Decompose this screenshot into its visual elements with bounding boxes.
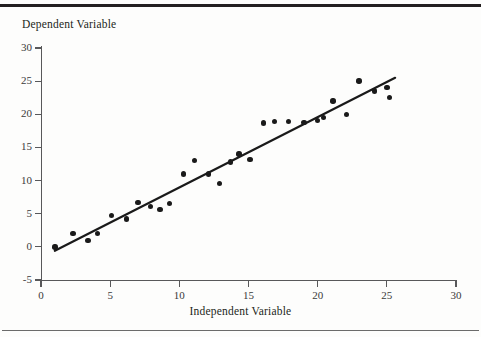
x-tick-label: 15 — [234, 289, 264, 301]
x-tick-mark — [317, 281, 318, 287]
y-tick-label: 25 — [10, 74, 32, 86]
y-tick-mark — [35, 47, 41, 48]
x-tick-label: 5 — [95, 289, 125, 301]
y-tick-label: 10 — [10, 174, 32, 186]
y-tick-label: 0 — [10, 240, 32, 252]
scatter-point — [135, 200, 140, 205]
x-tick-mark — [386, 281, 387, 287]
scatter-point — [286, 119, 291, 124]
scatter-point — [247, 157, 252, 162]
figure-container: Dependent Variable -5051015202530 051015… — [0, 0, 481, 337]
y-tick-label: 15 — [10, 140, 32, 152]
x-tick-mark — [40, 281, 41, 287]
x-tick-mark — [455, 281, 456, 287]
scatter-point — [344, 112, 349, 117]
scatter-point — [387, 95, 392, 100]
plot-area: -5051015202530 051015202530 — [0, 0, 481, 337]
x-tick-label: 10 — [164, 289, 194, 301]
scatter-point — [124, 216, 129, 221]
y-tick-label: -5 — [10, 273, 32, 285]
scatter-point — [330, 98, 335, 103]
scatter-point — [95, 231, 100, 236]
scatter-point — [109, 213, 114, 218]
scatter-point — [261, 120, 266, 125]
x-tick-label: 25 — [372, 289, 402, 301]
scatter-point — [236, 151, 241, 156]
y-tick-label: 20 — [10, 107, 32, 119]
scatter-point — [356, 78, 361, 83]
y-tick-label: 5 — [10, 207, 32, 219]
scatter-point — [70, 231, 75, 236]
scatter-point — [384, 85, 389, 90]
scatter-point — [206, 171, 211, 176]
regression-line — [0, 0, 481, 337]
scatter-point — [372, 88, 377, 93]
x-tick-label: 30 — [441, 289, 471, 301]
y-tick-label: 30 — [10, 41, 32, 53]
x-tick-mark — [179, 281, 180, 287]
y-tick-mark — [35, 246, 41, 247]
scatter-point — [217, 181, 222, 186]
scatter-point — [181, 171, 186, 176]
y-tick-mark — [35, 180, 41, 181]
x-tick-label: 20 — [303, 289, 333, 301]
scatter-point — [167, 201, 172, 206]
x-tick-mark — [110, 281, 111, 287]
scatter-point — [228, 159, 233, 164]
scatter-point — [192, 158, 197, 163]
scatter-point — [85, 238, 90, 243]
scatter-point — [272, 119, 277, 124]
scatter-point — [321, 115, 326, 120]
scatter-point — [148, 204, 153, 209]
scatter-point — [301, 120, 306, 125]
y-tick-mark — [35, 147, 41, 148]
y-axis-line — [41, 46, 42, 282]
scatter-point — [157, 207, 162, 212]
y-tick-mark — [35, 81, 41, 82]
y-tick-mark — [35, 213, 41, 214]
scatter-point — [52, 244, 57, 249]
x-tick-mark — [248, 281, 249, 287]
scatter-point — [315, 118, 320, 123]
x-axis-title: Independent Variable — [0, 305, 481, 317]
x-tick-label: 0 — [26, 289, 56, 301]
y-tick-mark — [35, 114, 41, 115]
